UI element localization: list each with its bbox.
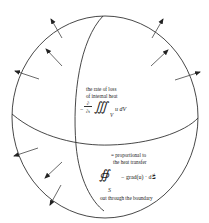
partial-numerator: ∂ [84, 101, 92, 107]
diagram-canvas: the rate of loss of internal heat − ∂ ∂t… [0, 0, 209, 223]
volume-subscript: V [110, 113, 113, 118]
arrow-icon [175, 72, 200, 80]
arrow-icon [152, 19, 163, 38]
arrow-icon [45, 162, 62, 178]
arrow-icon [46, 49, 62, 66]
partial-denominator: ∂t [84, 109, 92, 114]
arrow-icon [15, 71, 39, 79]
surface-integral-icon: ∯ [99, 168, 109, 181]
equator-curve [12, 114, 198, 145]
surface-integrand: − grad(u) · dS⃗ [121, 174, 156, 180]
triple-integral-icon: ∭ [94, 100, 108, 113]
surface-label-line1: = proportional to [111, 153, 146, 158]
surface-subscript: S [108, 187, 111, 193]
arrow-icon [151, 50, 168, 66]
minus-sign: − [80, 106, 83, 112]
volume-label-line1: the rate of loss [86, 87, 116, 92]
sphere-outline [12, 16, 198, 218]
surface-label-line3: out through the boundary [100, 196, 153, 201]
surface-label-line2: the heat transfer [113, 160, 146, 165]
volume-integrand: u dV [115, 106, 126, 112]
